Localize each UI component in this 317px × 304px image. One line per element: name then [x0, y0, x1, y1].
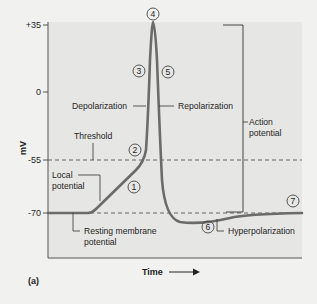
ytick-0: 0	[36, 87, 41, 97]
svg-text:5: 5	[166, 67, 171, 77]
label-local-potential-1: Local	[52, 170, 73, 180]
ytick-55: -55	[28, 155, 41, 165]
label-repolarization: Repolarization	[178, 101, 233, 111]
svg-text:6: 6	[206, 222, 211, 232]
label-resting-2: potential	[84, 237, 117, 247]
time-arrow-icon	[193, 269, 200, 276]
stage-marker-4: 4	[147, 8, 159, 20]
y-axis-label: mV	[18, 141, 28, 155]
ytick-70: -70	[28, 208, 41, 218]
label-hyperpolarization: Hyperpolarization	[228, 226, 295, 236]
x-axis-label: Time	[142, 267, 163, 277]
svg-text:2: 2	[133, 145, 138, 155]
action-potential-diagram: +35 0 -55 -70 mV Depolarization Repolari…	[0, 0, 317, 304]
panel-label: (a)	[28, 276, 39, 286]
svg-text:7: 7	[291, 196, 296, 206]
svg-text:1: 1	[132, 182, 137, 192]
label-resting-1: Resting membrane	[84, 226, 157, 236]
label-local-potential-2: potential	[52, 181, 85, 191]
label-threshold: Threshold	[74, 131, 112, 141]
label-depolarization: Depolarization	[72, 101, 127, 111]
svg-text:3: 3	[137, 66, 142, 76]
label-action-potential-2: potential	[249, 128, 282, 138]
ytick-35: +35	[26, 20, 41, 30]
svg-text:4: 4	[151, 9, 156, 19]
label-action-potential-1: Action	[249, 117, 273, 127]
